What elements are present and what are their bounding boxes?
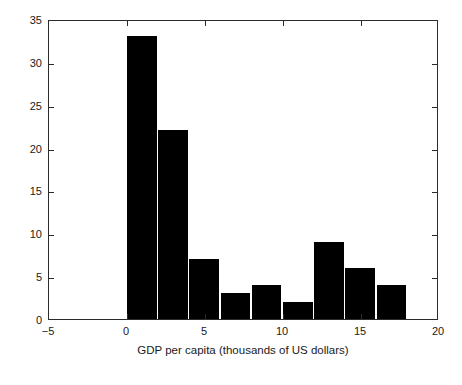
x-axis-tick-label: 5	[201, 325, 207, 337]
x-axis-tick	[127, 314, 128, 319]
histogram-bar	[377, 285, 407, 319]
y-axis-tick-label: 15	[30, 185, 42, 197]
y-axis-tick	[49, 192, 54, 193]
x-axis-tick	[283, 21, 284, 26]
x-axis-tick-label: 15	[354, 325, 366, 337]
y-axis-tick-label: 10	[30, 228, 42, 240]
histogram-bar	[158, 130, 188, 319]
histogram-bar	[283, 302, 313, 319]
histogram-figure: 05101520253035 −505101520 GDP per capita…	[0, 0, 462, 385]
y-axis-tick	[432, 278, 437, 279]
y-axis-tick	[49, 107, 54, 108]
x-axis-title: GDP per capita (thousands of US dollars)	[48, 344, 438, 356]
x-axis-tick	[127, 21, 128, 26]
histogram-bar	[345, 268, 375, 319]
x-axis-tick-label: 10	[276, 325, 288, 337]
histogram-bar	[127, 36, 157, 319]
x-axis-tick-label: −5	[42, 325, 55, 337]
y-axis-tick	[432, 107, 437, 108]
y-axis-tick	[49, 278, 54, 279]
y-axis-tick-label: 20	[30, 143, 42, 155]
x-axis-tick	[361, 21, 362, 26]
x-axis-tick	[361, 314, 362, 319]
x-axis-tick	[205, 314, 206, 319]
y-axis-tick	[432, 235, 437, 236]
y-axis-tick	[49, 64, 54, 65]
histogram-bar	[189, 259, 219, 319]
x-axis-tick-labels: −505101520	[48, 325, 438, 341]
y-axis-tick	[432, 150, 437, 151]
plot-area	[48, 20, 438, 320]
y-axis-tick	[432, 64, 437, 65]
bars-layer	[49, 21, 437, 319]
x-axis-tick-label: 20	[432, 325, 444, 337]
y-axis-tick	[49, 150, 54, 151]
y-axis-tick-label: 30	[30, 57, 42, 69]
x-axis-tick	[283, 314, 284, 319]
y-axis-tick-label: 5	[36, 271, 42, 283]
histogram-bar	[314, 242, 344, 319]
histogram-bar	[252, 285, 282, 319]
y-axis-tick-labels: 05101520253035	[0, 20, 42, 320]
x-axis-tick	[205, 21, 206, 26]
y-axis-tick	[49, 235, 54, 236]
x-axis-tick-label: 0	[123, 325, 129, 337]
y-axis-tick-label: 25	[30, 100, 42, 112]
histogram-bar	[221, 293, 251, 319]
y-axis-tick	[432, 192, 437, 193]
y-axis-tick-label: 35	[30, 14, 42, 26]
